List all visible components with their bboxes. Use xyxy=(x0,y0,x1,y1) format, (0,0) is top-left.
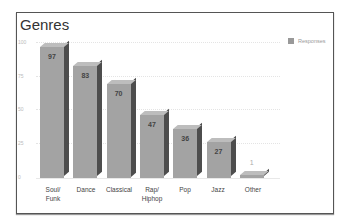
bar-top xyxy=(240,171,269,175)
bar-value-label: 47 xyxy=(140,121,164,128)
baseline xyxy=(36,178,280,179)
bar-value-label: 36 xyxy=(173,135,197,142)
legend-swatch xyxy=(288,38,294,44)
bar-value-label: 83 xyxy=(73,72,97,79)
legend[interactable]: Responses xyxy=(288,38,326,44)
bar-value-label: 1 xyxy=(240,159,264,166)
bar[interactable]: 70 xyxy=(107,84,137,179)
x-label-pop: Pop xyxy=(167,185,203,194)
y-tick-100: 100 xyxy=(18,39,38,45)
chart-title: Genres xyxy=(20,16,69,33)
bar-top xyxy=(73,62,102,66)
bar-top xyxy=(140,111,169,115)
bar-side xyxy=(64,41,69,176)
bar[interactable]: 83 xyxy=(73,66,103,178)
bar-front xyxy=(73,66,97,178)
y-tick-50: 50 xyxy=(18,106,38,112)
gridline xyxy=(36,42,280,43)
bar-front xyxy=(107,84,131,179)
bar-top xyxy=(40,43,69,47)
y-tick-75: 75 xyxy=(18,73,38,79)
x-label-other: Other xyxy=(235,185,271,194)
legend-label: Responses xyxy=(298,38,326,44)
x-label-rap-hiphop: Rap/Hiphop xyxy=(134,185,170,203)
y-tick-25: 25 xyxy=(18,140,38,146)
bar-front xyxy=(240,175,264,178)
x-label-jazz: Jazz xyxy=(200,185,236,194)
bar[interactable]: 27 xyxy=(207,142,237,178)
bar[interactable]: 97 xyxy=(40,47,70,178)
bar-value-label: 27 xyxy=(207,148,231,155)
bar-top xyxy=(107,80,136,84)
bar[interactable]: 1 xyxy=(240,175,270,178)
bar-side xyxy=(131,77,136,176)
bar[interactable]: 47 xyxy=(140,115,170,178)
bar-side xyxy=(197,123,202,176)
x-label-soul-funk: Soul/Funk xyxy=(35,185,71,203)
x-label-dance: Dance xyxy=(68,185,104,194)
bar[interactable]: 36 xyxy=(173,129,203,178)
y-tick-0: 0 xyxy=(18,174,38,180)
bar-front xyxy=(40,47,64,178)
bar-value-label: 97 xyxy=(40,53,64,60)
bar-value-label: 70 xyxy=(107,90,131,97)
x-label-classical: Classical xyxy=(101,185,137,194)
bar-top xyxy=(207,138,236,142)
bar-side xyxy=(164,108,169,176)
bar-side xyxy=(97,60,102,176)
